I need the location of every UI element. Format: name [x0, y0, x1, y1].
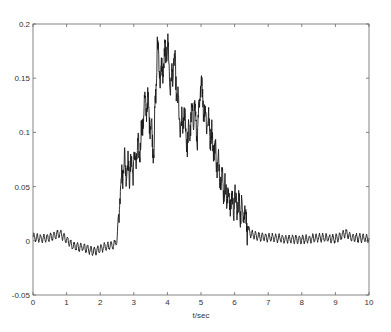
x-tick-label: 6	[232, 298, 237, 307]
x-tick-label: 8	[300, 298, 305, 307]
y-tick-label: 0.1	[19, 128, 31, 137]
x-tick-label: 2	[98, 298, 103, 307]
y-tick-label: 0	[26, 237, 31, 246]
x-tick-label: 0	[31, 298, 36, 307]
x-tick-label: 7	[266, 298, 271, 307]
x-tick-label: 4	[165, 298, 170, 307]
y-tick-label: 0.15	[14, 74, 30, 83]
line-chart: 012345678910 -0.0500.050.10.150.2 t/sec	[0, 0, 391, 332]
y-tick-label: -0.05	[12, 291, 31, 300]
x-tick-label: 10	[365, 298, 374, 307]
y-tick-label: 0.2	[19, 20, 31, 29]
plot-area	[33, 24, 369, 295]
x-tick-label: 1	[64, 298, 69, 307]
x-tick-label: 9	[333, 298, 338, 307]
y-tick-label: 0.05	[14, 183, 30, 192]
x-tick-label: 3	[132, 298, 137, 307]
x-tick-label: 5	[199, 298, 204, 307]
x-axis-label: t/sec	[193, 311, 210, 320]
